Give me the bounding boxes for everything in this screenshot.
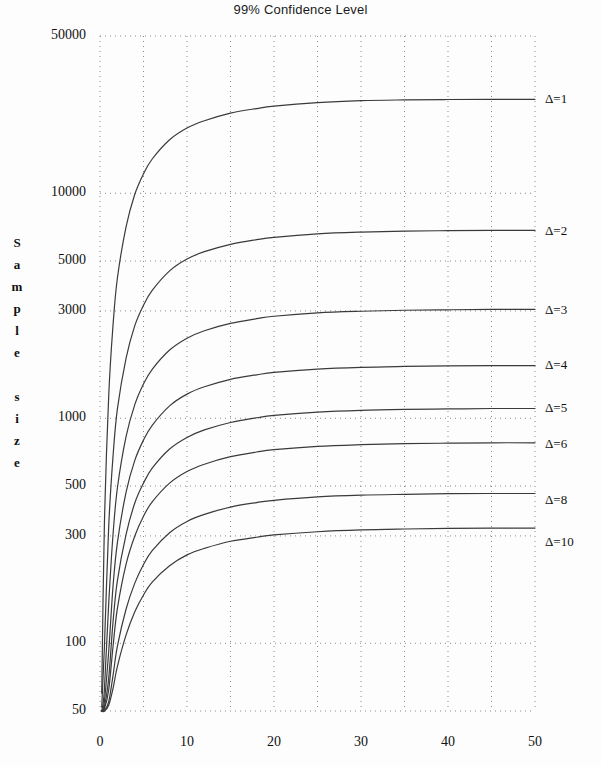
series-curve [102,443,535,711]
series-curve [102,493,535,711]
series-curves [102,99,535,711]
y-tick-label: 500 [14,477,86,493]
series-label: Δ=4 [545,357,567,373]
y-tick-label: 300 [14,527,86,543]
series-curve [102,408,535,711]
x-tick-label: 30 [341,734,381,750]
series-curve [102,366,535,711]
plot-area [0,0,601,767]
x-tick-label: 10 [167,734,207,750]
series-curve [102,309,535,711]
y-tick-label: 100 [14,634,86,650]
series-label: Δ=10 [545,534,574,550]
y-tick-label: 5000 [14,252,86,268]
chart-page: 99% Confidence Level S a m p l e s i z e… [0,0,601,767]
y-tick-label: 3000 [14,302,86,318]
x-tick-label: 0 [80,734,120,750]
series-label: Δ=5 [545,400,567,416]
y-tick-label: 50 [14,702,86,718]
y-tick-label: 50000 [14,27,86,43]
series-label: Δ=8 [545,492,567,508]
x-tick-label: 20 [254,734,294,750]
series-label: Δ=2 [545,223,567,239]
y-tick-label: 1000 [14,409,86,425]
series-curve [102,99,535,693]
series-label: Δ=6 [545,436,567,452]
x-tick-label: 40 [428,734,468,750]
series-curve [102,528,535,711]
vertical-gridlines [100,36,535,711]
y-tick-label: 10000 [14,184,86,200]
series-label: Δ=1 [545,91,567,107]
series-curve [102,230,535,707]
x-tick-label: 50 [515,734,555,750]
series-label: Δ=3 [545,302,567,318]
horizontal-gridlines [100,36,535,711]
